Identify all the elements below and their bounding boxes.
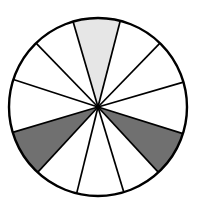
center-point — [96, 105, 100, 109]
divided-circle-diagram — [0, 0, 200, 213]
